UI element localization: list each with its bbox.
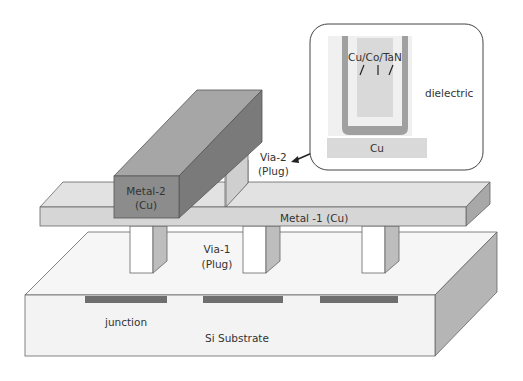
junction-2 [203, 296, 283, 303]
inset-layers-label: Cu/Co/TaN [348, 51, 402, 63]
inset-cross-section: Cu/Co/TaN dielectric Cu [310, 24, 483, 170]
cu-base-label: Cu [370, 142, 384, 154]
via1-label-2: (Plug) [202, 258, 233, 270]
via2-label-1: Via-2 [260, 151, 287, 163]
junction-1 [85, 296, 167, 303]
substrate-label: Si Substrate [205, 332, 269, 344]
metal2-label-2: (Cu) [135, 199, 157, 211]
metal1-label: Metal -1 (Cu) [280, 212, 348, 224]
dielectric-label: dielectric [425, 87, 474, 99]
metal2-label-1: Metal-2 [126, 185, 165, 197]
interconnect-diagram: Metal-2 (Cu) Via-2 (Plug) Metal -1 (Cu) … [0, 0, 523, 381]
via2-label-2: (Plug) [258, 165, 289, 177]
junction-label: junction [104, 316, 147, 328]
metal1-line [40, 182, 490, 226]
via1-label-1: Via-1 [204, 243, 231, 255]
callout-arrow-icon [291, 153, 312, 163]
junctions [85, 296, 398, 303]
junction-3 [320, 296, 398, 303]
